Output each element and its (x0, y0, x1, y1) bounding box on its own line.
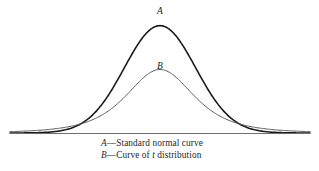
curve-b-t-distribution (10, 70, 310, 132)
curve-b-label: B (157, 61, 163, 71)
curve-a-label: A (156, 6, 163, 16)
curve-a-standard-normal (10, 26, 310, 133)
legend-text-b-before: Curve of (116, 150, 152, 160)
legend-text-b-after: distribution (155, 150, 202, 160)
legend-dash-b: — (107, 150, 116, 160)
legend-text-a: Standard normal curve (116, 138, 203, 148)
figure-container: A B A—Standard normal curve B—Curve of t… (0, 0, 319, 171)
legend-dash-a: — (107, 138, 116, 148)
legend-item-a: A—Standard normal curve (101, 138, 281, 150)
legend-item-b: B—Curve of t distribution (101, 150, 281, 162)
legend: A—Standard normal curve B—Curve of t dis… (101, 138, 281, 161)
